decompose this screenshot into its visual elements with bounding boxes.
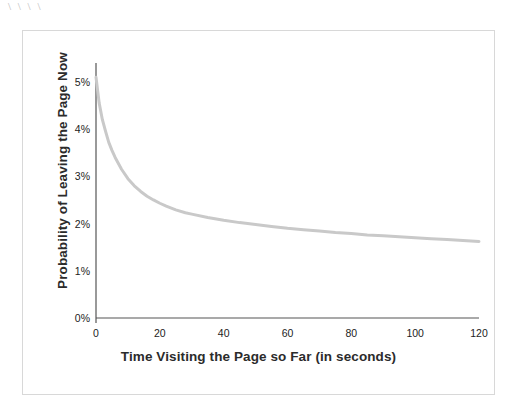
chart-card: Probability of Leaving the Page Now Time…: [22, 30, 495, 395]
series-line: [96, 77, 479, 241]
chart-svg: [23, 31, 496, 396]
chart-axes: [96, 63, 479, 323]
chart-series-group: [96, 77, 479, 241]
chart-plot-area: Probability of Leaving the Page Now Time…: [23, 31, 494, 394]
artifact-marks: \ \ \ \: [8, 0, 50, 12]
